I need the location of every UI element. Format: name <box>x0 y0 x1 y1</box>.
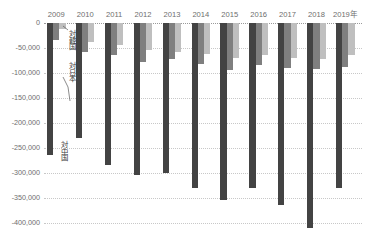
bar-group <box>275 23 304 235</box>
bar-group <box>160 23 189 235</box>
bar-korea <box>175 23 181 52</box>
bar-china <box>47 23 53 155</box>
bar-group <box>246 23 275 235</box>
annotation-leader-korea <box>59 23 71 33</box>
bar-korea <box>146 23 152 50</box>
bar-group <box>102 23 131 235</box>
y-axis-tick-label: -300,000 <box>0 169 40 176</box>
bar-korea <box>204 23 210 54</box>
chart-container: 2009201020112012201320142015201620172018… <box>0 0 366 243</box>
x-axis-tick-label: 2014 <box>192 11 209 19</box>
y-axis-tick-label: -200,000 <box>0 119 40 126</box>
bar-group <box>304 23 333 235</box>
bar-korea <box>88 23 94 42</box>
y-axis-tick-label: -250,000 <box>0 144 40 151</box>
x-axis-tick-label: 2009 <box>48 11 65 19</box>
bar-group <box>217 23 246 235</box>
plot-area: 2009201020112012201320142015201620172018… <box>44 23 362 235</box>
bar-group <box>73 23 102 235</box>
bar-korea <box>117 23 123 45</box>
annotation-leader-line <box>68 61 82 105</box>
bar-group <box>131 23 160 235</box>
annotation-label-2: 対中国 <box>60 140 68 160</box>
x-axis-tick-label: 2019年 <box>333 11 358 19</box>
y-axis-tick-label: -400,000 <box>0 219 40 226</box>
x-axis-tick-label: 2017 <box>279 11 296 19</box>
x-axis-tick-label: 2010 <box>77 11 94 19</box>
bar-group <box>189 23 218 235</box>
y-axis-tick-label: -150,000 <box>0 94 40 101</box>
y-axis-tick-label: -50,000 <box>0 44 40 51</box>
bar-korea <box>291 23 297 58</box>
y-axis-tick-label: -350,000 <box>0 194 40 201</box>
x-axis-tick-label: 2016 <box>250 11 267 19</box>
bar-korea <box>320 23 326 59</box>
bar-korea <box>233 23 239 58</box>
x-axis-tick-label: 2015 <box>221 11 238 19</box>
x-axis-tick-label: 2011 <box>106 11 122 19</box>
x-axis-tick-label: 2012 <box>135 11 152 19</box>
bar-group <box>44 23 73 235</box>
bar-korea <box>348 23 354 55</box>
x-axis-tick-label: 2013 <box>163 11 180 19</box>
bar-korea <box>262 23 268 55</box>
bar-group <box>333 23 362 235</box>
y-axis-tick-label: -100,000 <box>0 69 40 76</box>
x-axis-tick-label: 2018 <box>308 11 325 19</box>
y-axis-tick-label: 0 <box>0 19 40 26</box>
